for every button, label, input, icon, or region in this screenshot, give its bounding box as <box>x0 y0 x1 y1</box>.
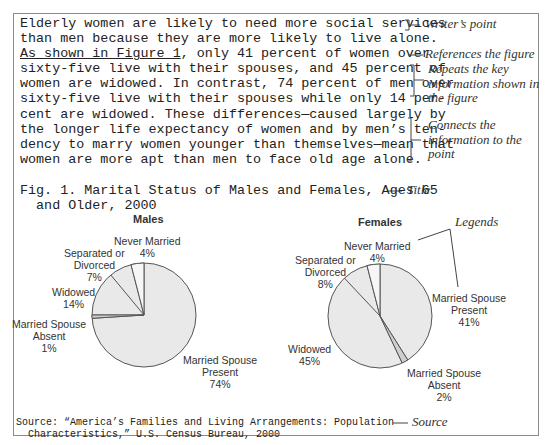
note-writers-point: Writer’s point <box>425 17 496 32</box>
note-source: Source <box>412 415 448 430</box>
note-connects: Connects the information to the point <box>428 118 522 162</box>
males-chart-title: Males <box>133 213 164 225</box>
note-references-figure: References the figure <box>425 47 535 62</box>
females-chart-title: Females <box>358 216 402 228</box>
figure-source: Source: “America’s Families and Living A… <box>16 417 394 441</box>
females-label-separated: Separated or Divorced 8% <box>295 254 356 290</box>
figure-title-line: Fig. 1. Marital Status of Males and Fema… <box>20 183 438 198</box>
figure-title: Fig. 1. Marital Status of Males and Fema… <box>20 183 438 213</box>
figure-title-line: and Older, 2000 <box>20 198 157 213</box>
note-repeats-key-info: Repeats the key information shown in the… <box>428 62 539 106</box>
males-label-separated: Separated or Divorced 7% <box>64 247 125 283</box>
source-line: Source: “America’s Families and Living A… <box>16 417 394 428</box>
source-line: Characteristics,” U.S. Census Bureau, 20… <box>16 429 280 440</box>
males-label-spouse-absent: Married Spouse Absent 1% <box>12 318 86 354</box>
females-label-spouse-present: Married Spouse Present 41% <box>432 292 506 328</box>
females-label-widowed: Widowed 45% <box>288 343 331 367</box>
males-label-spouse-present: Married Spouse Present 74% <box>183 354 257 390</box>
note-legends: Legends <box>455 215 498 230</box>
females-label-spouse-absent: Married Spouse Absent 2% <box>407 367 481 403</box>
males-label-widowed: Widowed 14% <box>52 286 95 310</box>
